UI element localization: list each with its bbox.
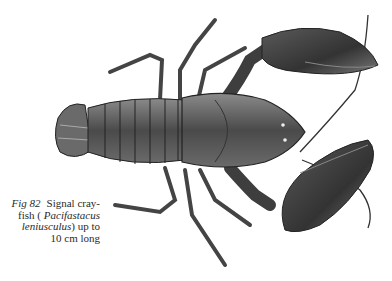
figure-caption: Fig 82Signal cray- fish ( Pacifastacus l… [0,198,100,244]
caption-line-4: 10 cm long [0,233,100,245]
genus-name: Pacifastacus [44,209,100,221]
species-name: leniusculus [22,220,72,232]
figure-label: Fig 82 [12,197,41,209]
figure: Fig 82Signal cray- fish ( Pacifastacus l… [0,0,392,281]
